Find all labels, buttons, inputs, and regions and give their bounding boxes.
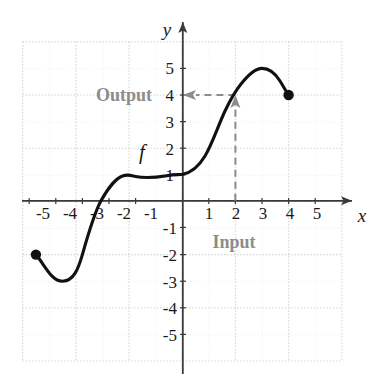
x-tick-label: -4 bbox=[63, 204, 78, 223]
x-tick-label: 3 bbox=[259, 204, 268, 223]
x-tick-label: -5 bbox=[36, 204, 50, 223]
x-axis-name-label: x bbox=[357, 205, 367, 226]
output-label: Output bbox=[96, 85, 152, 105]
curve-left-endpoint-dot bbox=[31, 249, 41, 259]
x-tick-label: -1 bbox=[144, 204, 158, 223]
curve-right-endpoint-dot bbox=[283, 90, 293, 100]
y-tick-label: -1 bbox=[163, 219, 177, 238]
x-tick-label: 1 bbox=[205, 204, 214, 223]
y-tick-label: -5 bbox=[163, 326, 177, 345]
function-graph-figure: y x -5 -4 -3 -2 -1 1 2 3 4 5 bbox=[0, 0, 385, 384]
x-tick-label: 2 bbox=[232, 204, 241, 223]
x-tick-label: -2 bbox=[117, 204, 131, 223]
y-tick-label: 5 bbox=[166, 59, 175, 78]
y-tick-label: -3 bbox=[163, 273, 177, 292]
y-tick-label: 2 bbox=[166, 140, 175, 159]
graph-canvas: y x -5 -4 -3 -2 -1 1 2 3 4 5 bbox=[0, 0, 385, 384]
y-tick-label: 4 bbox=[166, 86, 175, 105]
input-label: Input bbox=[212, 232, 255, 252]
x-tick-label: 4 bbox=[286, 204, 295, 223]
x-tick-label: 5 bbox=[313, 204, 322, 223]
y-tick-label: -2 bbox=[163, 246, 177, 265]
y-axis-name-label: y bbox=[161, 19, 172, 40]
y-tick-label: -4 bbox=[163, 299, 178, 318]
y-tick-label: 3 bbox=[166, 113, 175, 132]
